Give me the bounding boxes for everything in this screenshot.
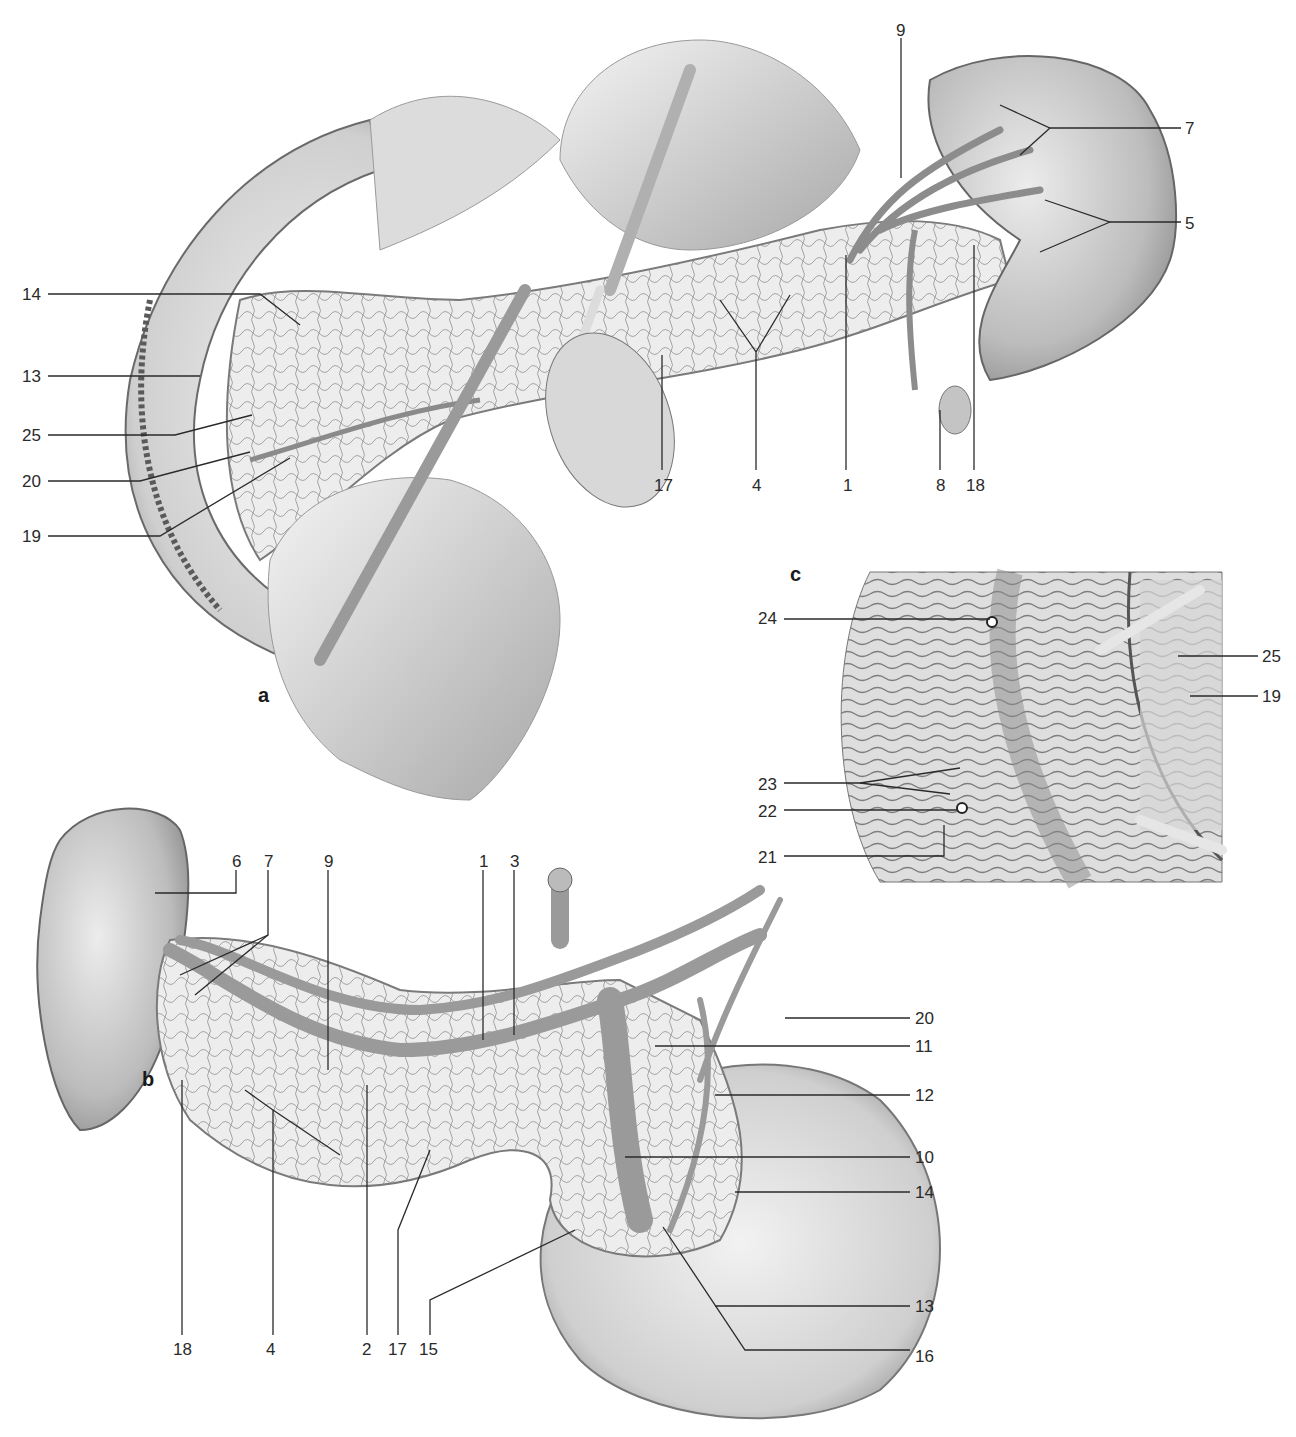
panel-b-label-6: 6 — [232, 853, 241, 870]
panel-b-label-17: 17 — [388, 1341, 407, 1358]
panel-c-label-21: 21 — [758, 849, 777, 866]
panel-letter-b: b — [142, 1068, 154, 1091]
panel-b-label-9: 9 — [324, 853, 333, 870]
panel-b-label-3: 3 — [510, 853, 519, 870]
panel-a-label-14: 14 — [22, 286, 41, 303]
panel-a-label-13: 13 — [22, 368, 41, 385]
panel-letter-c: c — [790, 563, 801, 586]
panel-a-label-1: 1 — [843, 477, 852, 494]
panel-b — [37, 809, 940, 1419]
lower-hand — [268, 478, 560, 800]
panel-c-label-22: 22 — [758, 803, 777, 820]
stomach — [370, 96, 560, 250]
anatomical-illustration — [0, 0, 1296, 1437]
panel-a-label-8: 8 — [936, 477, 945, 494]
panel-a-label-25: 25 — [22, 427, 41, 444]
panel-c-label-25: 25 — [1262, 648, 1281, 665]
panel-b-label-13: 13 — [915, 1298, 934, 1315]
panel-b-label-11: 11 — [915, 1038, 933, 1055]
panel-c-label-23: 23 — [758, 776, 777, 793]
panel-a-label-5: 5 — [1185, 215, 1194, 232]
accessory-spleen — [939, 386, 971, 434]
major-papilla — [957, 803, 967, 813]
spleen-a — [928, 56, 1176, 380]
panel-a-label-4: 4 — [752, 477, 761, 494]
panel-b-label-10: 10 — [915, 1149, 934, 1166]
upper-hand — [560, 40, 860, 250]
panel-b-label-20: 20 — [915, 1010, 934, 1027]
panel-b-label-14: 14 — [915, 1184, 934, 1201]
panel-c — [784, 572, 1258, 882]
panel-b-label-7: 7 — [264, 853, 273, 870]
panel-a-label-9: 9 — [896, 22, 905, 39]
panel-a-label-18: 18 — [966, 477, 985, 494]
panel-c-label-19: 19 — [1262, 688, 1281, 705]
panel-a-label-20: 20 — [22, 473, 41, 490]
panel-b-label-1: 1 — [479, 853, 488, 870]
panel-a-label-19: 19 — [22, 528, 41, 545]
panel-a-label-7: 7 — [1185, 120, 1194, 137]
panel-c-label-24: 24 — [758, 610, 777, 627]
panel-b-label-15: 15 — [419, 1341, 438, 1358]
panel-a-label-17: 17 — [654, 477, 673, 494]
panel-b-label-12: 12 — [915, 1087, 934, 1104]
panel-b-label-2: 2 — [362, 1341, 371, 1358]
panel-letter-a: a — [258, 684, 269, 707]
panel-b-label-16: 16 — [915, 1348, 934, 1365]
panel-b-label-18: 18 — [173, 1341, 192, 1358]
panel-b-label-4: 4 — [266, 1341, 275, 1358]
